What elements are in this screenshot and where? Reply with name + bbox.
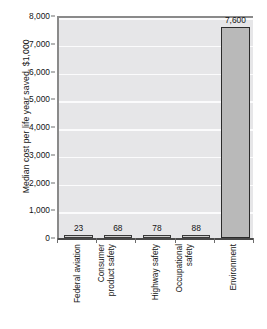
y-tick-label: 4,000	[12, 123, 50, 131]
y-tick-mark	[51, 182, 55, 183]
y-tick-mark	[51, 238, 55, 239]
y-tick-label: 6,000	[12, 67, 50, 75]
y-tick-mark	[51, 99, 55, 100]
x-category-label-line: Occupational	[174, 244, 184, 292]
x-tick-mark	[135, 238, 136, 243]
bar-chart: Median cost per life year saved, $1,000 …	[0, 0, 267, 329]
y-tick-mark	[51, 43, 55, 44]
y-tick-label: 7,000	[12, 40, 50, 48]
x-category-label-line: Environment	[228, 244, 238, 291]
y-tick-mark	[51, 16, 55, 17]
x-tick-mark	[253, 238, 254, 243]
bar-value-label: 23	[74, 224, 83, 232]
x-axis-category-labels: Federal aviationConsumerproduct safetyHi…	[57, 244, 253, 329]
x-tick-mark	[57, 238, 58, 243]
y-tick-mark	[51, 127, 55, 128]
x-tick-mark	[214, 238, 215, 243]
bar-value-label: 7,600	[225, 16, 246, 24]
y-tick-mark	[51, 71, 55, 72]
x-axis-line	[57, 238, 253, 240]
y-tick-label: 8,000	[12, 12, 50, 20]
x-category-label: Environment	[191, 244, 267, 260]
x-tick-mark	[96, 238, 97, 243]
bar-value-label: 88	[192, 224, 201, 232]
x-category-label-line: Consumer	[96, 244, 106, 296]
bar-value-label: 68	[113, 224, 122, 232]
y-axis-tick-labels: 01,0002,0003,0004,0005,0006,0007,0008,00…	[12, 16, 50, 238]
y-tick-label: 5,000	[12, 95, 50, 103]
plot-area: 236878887,600	[57, 16, 253, 238]
y-tick-label: 2,000	[12, 178, 50, 186]
y-tick-mark	[51, 154, 55, 155]
bar-value-label: 78	[152, 224, 161, 232]
y-tick-label: 3,000	[12, 151, 50, 159]
bar-value-labels: 236878887,600	[59, 18, 253, 238]
x-tick-mark	[175, 238, 176, 243]
y-tick-label: 0	[12, 234, 50, 242]
y-tick-mark	[51, 210, 55, 211]
y-tick-label: 1,000	[12, 206, 50, 214]
